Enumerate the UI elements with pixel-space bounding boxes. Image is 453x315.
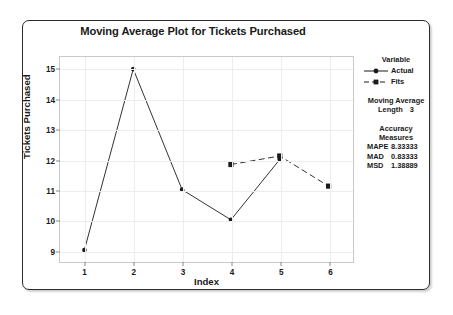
x-tick-mark [133, 262, 134, 266]
moving-average-length-row: Length 3 [363, 105, 429, 114]
x-tick-mark [232, 262, 233, 266]
legend-entry-fits: Fits [363, 76, 429, 87]
chart-frame: Moving Average Plot for Tickets Purchase… [22, 20, 430, 290]
chart-screenshot: Moving Average Plot for Tickets Purchase… [0, 0, 453, 315]
gridline-horizontal [60, 221, 353, 222]
y-tick-label: 14 [46, 95, 55, 104]
accuracy-measures-block: Accuracy Measures MAPE 8.33333 MAD 0.833… [363, 124, 429, 171]
gridline-vertical [281, 57, 282, 262]
x-tick-mark [182, 262, 183, 266]
y-tick-mark [56, 160, 60, 161]
y-tick-mark [56, 251, 60, 252]
square-marker-icon [363, 77, 389, 87]
gridline-horizontal [60, 161, 353, 162]
y-tick-mark [56, 221, 60, 222]
gridline-horizontal [60, 100, 353, 101]
accuracy-measures-heading: Accuracy Measures [363, 124, 429, 143]
side-panel: Variable Actual Fits [363, 55, 429, 171]
accuracy-value-msd: 1.38889 [391, 161, 429, 171]
x-tick-mark [330, 262, 331, 266]
accuracy-row-msd: MSD 1.38889 [363, 161, 429, 171]
gridline-vertical [85, 57, 86, 262]
y-tick-label: 9 [50, 247, 55, 256]
circle-marker-icon [363, 66, 389, 76]
gridline-vertical [330, 57, 331, 262]
gridline-horizontal [60, 252, 353, 253]
y-tick-mark [56, 99, 60, 100]
y-axis-label: Tickets Purchased [21, 74, 32, 159]
accuracy-value-mape: 8.33333 [391, 142, 429, 152]
y-tick-label: 11 [46, 186, 55, 195]
y-tick-label: 15 [46, 65, 55, 74]
y-tick-mark [56, 130, 60, 131]
legend-label-fits: Fits [389, 77, 404, 86]
length-label: Length [378, 105, 403, 114]
length-value: 3 [410, 105, 414, 114]
plot-area: 9101112131415123456 [59, 56, 354, 263]
moving-average-block: Moving Average Length 3 [363, 96, 429, 115]
y-tick-mark [56, 190, 60, 191]
x-tick-mark [84, 262, 85, 266]
y-tick-mark [56, 69, 60, 70]
accuracy-row-mape: MAPE 8.33333 [363, 142, 429, 152]
legend-entry-actual: Actual [363, 65, 429, 76]
moving-average-heading: Moving Average [363, 96, 429, 105]
legend-label-actual: Actual [389, 66, 414, 75]
y-tick-label: 13 [46, 126, 55, 135]
chart-title: Moving Average Plot for Tickets Purchase… [23, 25, 363, 37]
x-axis-label: Index [59, 276, 354, 287]
gridline-horizontal [60, 69, 353, 70]
accuracy-row-mad: MAD 0.83333 [363, 152, 429, 162]
accuracy-name-mape: MAPE [367, 142, 391, 152]
y-tick-label: 12 [46, 156, 55, 165]
gridline-vertical [183, 57, 184, 262]
gridline-horizontal [60, 191, 353, 192]
accuracy-name-mad: MAD [367, 152, 391, 162]
gridline-vertical [232, 57, 233, 262]
legend-title: Variable [363, 55, 429, 64]
gridline-horizontal [60, 130, 353, 131]
accuracy-value-mad: 0.83333 [391, 152, 429, 162]
x-tick-mark [281, 262, 282, 266]
y-tick-label: 10 [46, 217, 55, 226]
accuracy-name-msd: MSD [367, 161, 391, 171]
gridline-vertical [134, 57, 135, 262]
data-series-layer [60, 57, 353, 262]
